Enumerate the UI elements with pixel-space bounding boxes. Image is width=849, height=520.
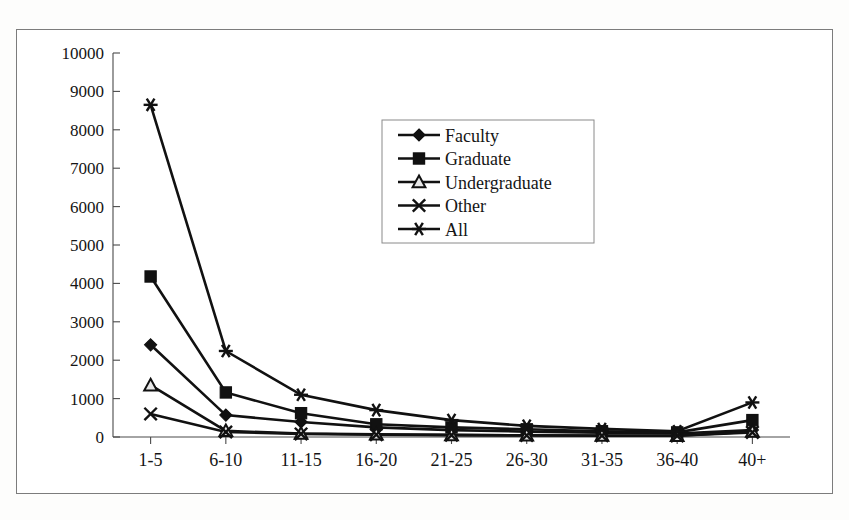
- y-axis-tick-label: 1000: [70, 390, 104, 409]
- y-axis-tick-label: 4000: [70, 274, 104, 293]
- series-marker-filled-square: [220, 387, 231, 398]
- series-marker-filled-square: [413, 153, 424, 164]
- y-axis-tickmarks: [113, 53, 120, 437]
- y-axis-tick-label: 3000: [70, 313, 104, 332]
- x-axis-tick-label: 26-30: [506, 450, 548, 470]
- series-marker-filled-square: [145, 271, 156, 282]
- y-axis-tick-label: 10000: [62, 44, 105, 63]
- x-axis-tick-label: 36-40: [656, 450, 698, 470]
- x-axis-tick-label: 31-35: [581, 450, 623, 470]
- y-axis-tick-label: 2000: [70, 351, 104, 370]
- x-axis-tick-label: 11-15: [280, 450, 321, 470]
- x-axis-tick-labels: 1-56-1011-1516-2021-2526-3031-3536-4040+: [139, 450, 767, 470]
- legend-entry-label: Other: [445, 196, 486, 216]
- series-markers-graduate: [145, 271, 758, 438]
- series-marker-asterisk: [745, 396, 759, 408]
- line-chart: 1000090008000700060005000400030002000100…: [0, 0, 849, 520]
- x-axis-tick-label: 1-5: [139, 450, 163, 470]
- figure-root: 1000090008000700060005000400030002000100…: [0, 0, 849, 520]
- series-marker-asterisk: [369, 404, 383, 416]
- y-axis-tick-label: 6000: [70, 198, 104, 217]
- y-axis-tick-label: 5000: [70, 236, 104, 255]
- plot-axes: [113, 53, 790, 437]
- legend-entry-label: All: [445, 220, 468, 240]
- legend-entry-label: Graduate: [445, 149, 511, 169]
- series-marker-filled-square: [295, 408, 306, 419]
- x-axis-tick-label: 21-25: [431, 450, 473, 470]
- y-axis-tick-label: 9000: [70, 82, 104, 101]
- series-marker-open-triangle: [144, 379, 157, 391]
- x-axis-tick-label: 40+: [738, 450, 766, 470]
- legend-entry-label: Faculty: [445, 126, 499, 146]
- y-axis-tick-label: 7000: [70, 159, 104, 178]
- x-axis-tick-label: 6-10: [209, 450, 242, 470]
- x-axis-tick-label: 16-20: [355, 450, 397, 470]
- legend-entry-label: Undergraduate: [445, 173, 552, 193]
- y-axis-tick-label: 8000: [70, 121, 104, 140]
- y-axis-tick-labels: 1000090008000700060005000400030002000100…: [62, 44, 105, 447]
- chart-legend: FacultyGraduateUndergraduateOtherAll: [382, 120, 594, 243]
- series-line-graduate: [151, 277, 753, 433]
- y-axis-tick-label: 0: [96, 428, 105, 447]
